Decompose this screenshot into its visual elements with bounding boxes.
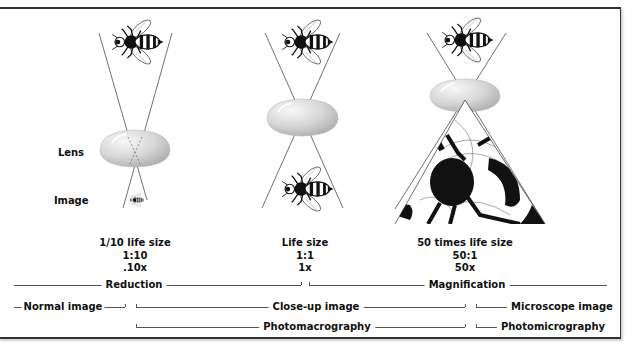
caption-ratio: 1:1 bbox=[225, 250, 385, 263]
close-up-range-label: Close-up image bbox=[269, 301, 364, 313]
caption-ratio: 1:10 bbox=[55, 250, 215, 263]
caption-life-size: Life size 1:1 1x bbox=[225, 237, 385, 275]
magnification-range-label: Magnification bbox=[425, 279, 510, 291]
reduction-range-label: Reduction bbox=[102, 279, 167, 291]
caption-factor: 50x bbox=[385, 262, 545, 275]
reduction-column bbox=[99, 17, 172, 208]
range-tick bbox=[465, 304, 466, 307]
range-tick bbox=[125, 304, 126, 307]
image-bee-icon bbox=[129, 193, 144, 208]
object-bee-icon bbox=[442, 15, 493, 65]
caption-title: 1/10 life size bbox=[55, 237, 215, 250]
object-bee-icon bbox=[112, 17, 163, 67]
object-bee-icon bbox=[282, 17, 333, 67]
lens-icon bbox=[100, 130, 170, 167]
life-size-column bbox=[262, 17, 343, 214]
range-row-3: Photomacrography Photomicrography bbox=[0, 327, 632, 339]
microscope-range-label: Microscope image bbox=[507, 301, 617, 313]
lens-label: Lens bbox=[58, 147, 84, 159]
caption-ratio: 50:1 bbox=[385, 250, 545, 263]
range-tick bbox=[301, 282, 302, 285]
normal-image-range-label: Normal image bbox=[22, 301, 105, 313]
lens-icon bbox=[267, 99, 338, 136]
range-row-1: Reduction Magnification bbox=[0, 285, 632, 297]
image-label: Image bbox=[54, 195, 88, 207]
caption-factor: .10x bbox=[55, 262, 215, 275]
caption-title: 50 times life size bbox=[385, 237, 545, 250]
caption-magnification: 50 times life size 50:1 50x bbox=[385, 237, 545, 275]
photomacrography-range-label: Photomacrography bbox=[259, 321, 375, 333]
range-tick bbox=[465, 324, 466, 327]
caption-factor: 1x bbox=[225, 262, 385, 275]
caption-title: Life size bbox=[225, 237, 385, 250]
magnified-bee-icon bbox=[395, 100, 545, 224]
magnification-column bbox=[395, 15, 545, 224]
photomicrography-range-label: Photomicrography bbox=[497, 321, 609, 333]
image-bee-icon bbox=[282, 164, 333, 214]
range-row-2: Normal image Close-up image Microscope i… bbox=[0, 307, 632, 319]
caption-reduction: 1/10 life size 1:10 .10x bbox=[55, 237, 215, 275]
